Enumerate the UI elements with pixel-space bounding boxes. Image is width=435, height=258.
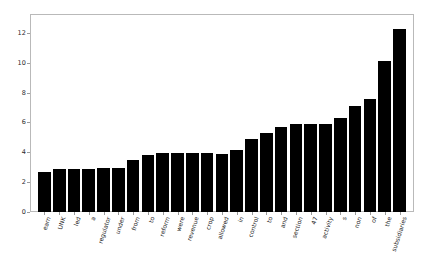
y-axis-tick-mark xyxy=(27,93,30,94)
y-axis-tick-mark xyxy=(27,152,30,153)
bar xyxy=(112,168,125,212)
x-axis-tick-mark xyxy=(355,212,356,215)
bar xyxy=(275,127,288,212)
bar xyxy=(186,153,199,212)
bar xyxy=(260,133,273,212)
bar xyxy=(334,118,347,212)
bar xyxy=(53,169,66,212)
bar xyxy=(290,124,303,212)
y-axis-tick-mark xyxy=(27,33,30,34)
y-axis-tick-mark xyxy=(27,182,30,183)
x-axis-tick-label: non xyxy=(354,216,363,229)
bar xyxy=(230,150,243,212)
x-axis-tick-label: a xyxy=(90,216,97,221)
bar xyxy=(127,160,140,212)
x-axis-tick-label: were xyxy=(175,216,185,232)
x-axis-tick-label: section xyxy=(291,216,303,239)
bar-chart: 024681012 earnUNKledaregulatorunderfromt… xyxy=(0,0,435,258)
bar xyxy=(171,153,184,212)
x-axis-tick-label: UNK xyxy=(57,216,67,230)
x-axis-tick-mark xyxy=(266,212,267,215)
x-axis-tick-label: reform xyxy=(159,216,171,237)
y-axis-tick-label: 4 xyxy=(0,149,30,156)
x-axis-tick-label: to xyxy=(266,216,274,224)
x-axis-tick-mark xyxy=(74,212,75,215)
x-axis-tick-label: under xyxy=(115,216,126,235)
x-axis-tick-label: in xyxy=(237,216,244,223)
x-axis-tick-label: regulator xyxy=(97,216,111,244)
bar xyxy=(349,106,362,212)
x-axis-tick-label: revenue xyxy=(187,216,200,242)
bar xyxy=(97,168,110,212)
x-axis-tick-label: of xyxy=(370,216,378,223)
bar xyxy=(82,169,95,212)
x-axis-tick-label: activity xyxy=(321,216,334,239)
bar xyxy=(245,139,258,212)
bar xyxy=(156,153,169,212)
x-axis-tick-mark xyxy=(281,212,282,215)
x-axis-tick-label: s xyxy=(341,216,348,221)
x-axis-tick-label: earn xyxy=(42,216,52,231)
bar xyxy=(68,169,81,212)
x-axis-tick-label: the xyxy=(384,216,393,227)
y-axis-tick-label: 8 xyxy=(0,89,30,96)
bar xyxy=(393,29,406,212)
bar xyxy=(142,155,155,212)
bar xyxy=(378,61,391,212)
bar xyxy=(364,99,377,212)
y-axis-tick-label: 0 xyxy=(0,209,30,216)
y-axis-tick-mark xyxy=(27,212,30,213)
bar xyxy=(304,124,317,212)
x-axis-tick-label: crop xyxy=(205,216,215,231)
y-axis-tick-label: 6 xyxy=(0,119,30,126)
x-axis-tick-label: from xyxy=(131,216,141,231)
bar xyxy=(201,153,214,212)
x-axis-tick-label: control xyxy=(247,216,259,238)
x-axis-tick-mark xyxy=(163,212,164,215)
x-axis-tick-label: to xyxy=(148,216,156,224)
x-axis-tick-label: allowed xyxy=(217,216,230,240)
y-axis-tick-label: 2 xyxy=(0,179,30,186)
x-axis-tick-mark xyxy=(222,212,223,215)
x-axis-tick-label: led xyxy=(73,216,82,227)
x-axis-tick-label: subsidiaries xyxy=(390,216,407,252)
x-axis-tick-label: and xyxy=(280,216,289,229)
x-axis-tick-mark xyxy=(340,212,341,215)
y-axis-tick-mark xyxy=(27,122,30,123)
bar xyxy=(216,154,229,212)
bar xyxy=(38,172,51,212)
x-axis-tick-mark xyxy=(207,212,208,215)
y-axis-tick-mark xyxy=(27,63,30,64)
x-axis-tick-label: 47 xyxy=(310,216,318,225)
y-axis-tick-label: 12 xyxy=(0,30,30,37)
bar xyxy=(319,124,332,212)
x-axis-tick-mark xyxy=(133,212,134,215)
x-axis-tick-mark xyxy=(252,212,253,215)
plot-area xyxy=(31,15,413,212)
bar-series xyxy=(31,15,413,212)
y-axis-tick-label: 10 xyxy=(0,60,30,67)
x-axis-tick-mark xyxy=(400,212,401,215)
